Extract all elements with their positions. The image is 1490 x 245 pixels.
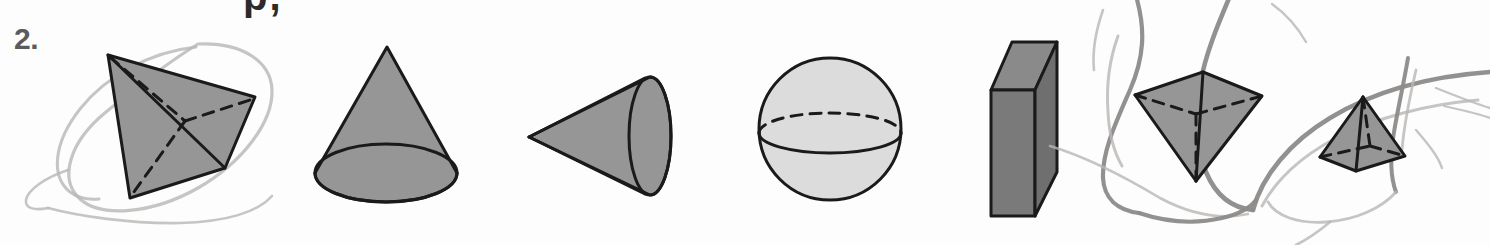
question-number: 2. [14, 22, 38, 56]
clipped-top-text: p, [243, 0, 283, 19]
pencil-marks-right [1050, 0, 1490, 245]
solids-figure [0, 0, 1490, 245]
shape-sphere [759, 58, 901, 200]
worksheet-page: 2. p, [0, 0, 1490, 245]
shape-rectangular-prism [991, 42, 1057, 216]
shape-pyramid-inverted [1135, 72, 1262, 181]
shape-tetrahedron [108, 55, 255, 198]
shape-cone-upright [315, 47, 457, 202]
shape-cone-sideways [529, 77, 671, 195]
